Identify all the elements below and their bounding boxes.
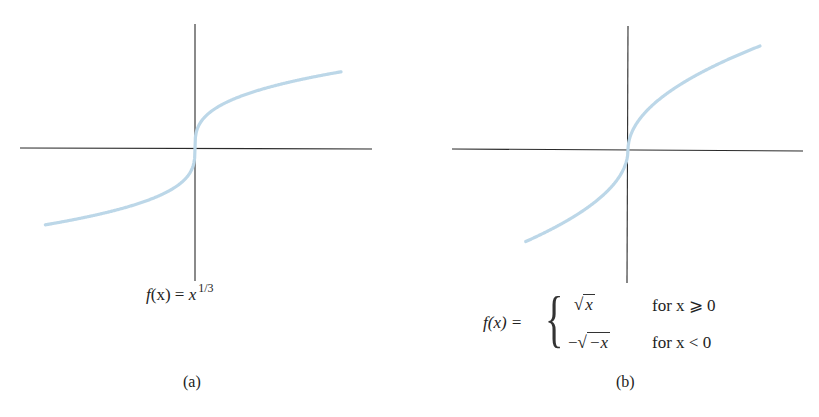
formula-b-row1-expr: x (583, 294, 595, 314)
sqrt-symbol: √x (574, 295, 595, 315)
formula-a-var: x (189, 285, 197, 304)
panel-a-caption: (a) (183, 373, 201, 391)
formula-a-paren: (x) = (151, 285, 189, 304)
panel-a-formula: f(x) = x1/3 (146, 285, 214, 305)
formula-b-cond-2: for x < 0 (652, 333, 711, 353)
formula-b-row-1: √x (574, 295, 595, 315)
formula-b-row2-minus: − (568, 333, 578, 352)
sqrt-symbol: √−x (578, 333, 610, 353)
formula-b-lhs: f(x) = (483, 313, 522, 333)
formula-b-cond-1: for x ⩾ 0 (652, 295, 716, 316)
figure-canvas (0, 0, 819, 417)
formula-b-row-2: −√−x (568, 333, 610, 353)
formula-b-row2-expr: −x (587, 332, 610, 352)
panel-b-curve (526, 46, 760, 242)
formula-b-brace: { (545, 287, 563, 351)
formula-a-exponent: 1/3 (198, 281, 213, 295)
panel-b-caption: (b) (616, 373, 635, 391)
